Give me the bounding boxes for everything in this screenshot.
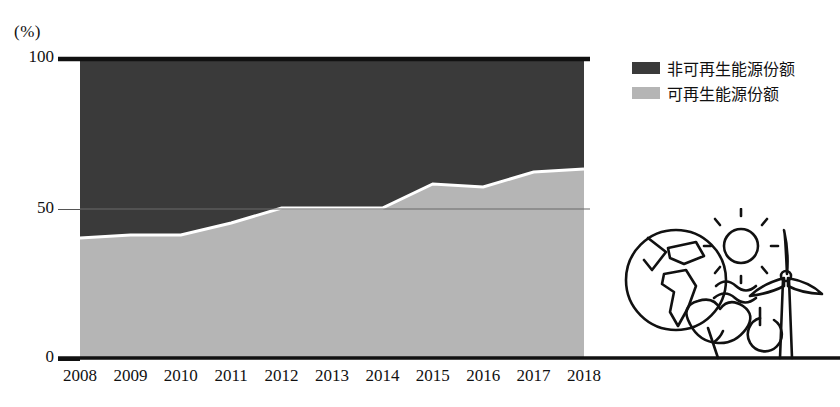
power-icon <box>748 308 782 351</box>
sun-icon <box>704 209 778 283</box>
x-axis-tick-2008: 2008 <box>63 366 97 386</box>
legend-swatch-non-renewable <box>632 62 660 74</box>
renewable-energy-illustration <box>608 208 840 368</box>
x-axis-tick-2015: 2015 <box>416 366 450 386</box>
x-axis-tick-2011: 2011 <box>215 366 248 386</box>
x-axis-tick-labels: 2008200920102011201220132014201520162017… <box>0 366 840 394</box>
x-axis-tick-2018: 2018 <box>567 366 601 386</box>
water-waves-icon <box>714 282 756 303</box>
legend-label-non-renewable: 非可再生能源份额 <box>667 56 795 80</box>
wind-turbine-icon <box>750 230 822 358</box>
legend-item-non-renewable[interactable]: 非可再生能源份额 <box>632 55 837 80</box>
x-axis-tick-2016: 2016 <box>466 366 500 386</box>
legend-swatch-renewable <box>632 87 660 99</box>
legend-label-renewable: 可再生能源份额 <box>667 81 779 105</box>
x-axis-tick-2014: 2014 <box>365 366 399 386</box>
chart-legend: 非可再生能源份额 可再生能源份额 <box>632 55 837 105</box>
x-axis-tick-2017: 2017 <box>517 366 551 386</box>
legend-item-renewable[interactable]: 可再生能源份额 <box>632 80 837 105</box>
leaf-icon <box>686 300 750 358</box>
x-axis-tick-2013: 2013 <box>315 366 349 386</box>
x-axis-tick-2009: 2009 <box>113 366 147 386</box>
chart-figure: (%) 100 50 0 200820092010201120122013201… <box>0 0 840 407</box>
x-axis-tick-2012: 2012 <box>265 366 299 386</box>
x-axis-tick-2010: 2010 <box>164 366 198 386</box>
